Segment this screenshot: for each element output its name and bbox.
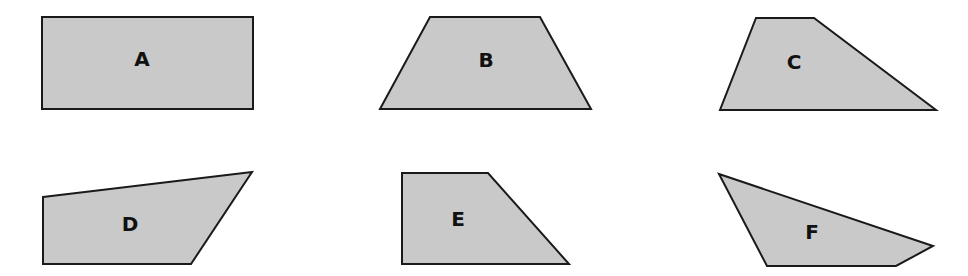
shape-d-label: D [122,212,139,236]
shape-b-label: B [478,48,493,72]
shape-c-polygon [720,18,936,110]
shape-f: F [719,174,933,266]
shape-a: A [42,17,253,109]
shape-b: B [380,17,591,109]
shape-a-label: A [134,47,150,71]
shape-e: E [402,173,569,264]
shape-e-label: E [451,207,465,231]
shape-f-label: F [805,220,819,244]
shape-f-polygon [719,174,933,266]
shapes-diagram: A B C D E F [0,0,968,276]
shape-c-label: C [787,50,802,74]
shape-d: D [43,172,252,264]
shape-d-polygon [43,172,252,264]
shape-e-polygon [402,173,569,264]
shape-c: C [720,18,936,110]
